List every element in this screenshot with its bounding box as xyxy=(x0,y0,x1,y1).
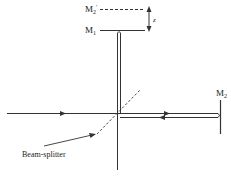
z-label: z xyxy=(152,16,156,24)
m2-label: M2 xyxy=(216,88,227,99)
horizontal-beam-to-m2 xyxy=(117,111,220,120)
vertical-beam-to-m1 xyxy=(118,32,121,171)
beam-splitter-callout: Beam-splitter xyxy=(22,133,96,159)
m1-label: M1 xyxy=(85,25,96,36)
z-displacement-arrow: z xyxy=(147,6,157,32)
beam-splitter-label: Beam-splitter xyxy=(22,150,66,159)
arrow-right-icon xyxy=(60,111,66,116)
virtual-mirror-m2-prime: M2' xyxy=(85,4,145,15)
m2-prime-label: M2' xyxy=(85,4,97,15)
mirror-m1: M1 xyxy=(85,25,145,36)
michelson-interferometer-diagram: M2' z M1 M2 xyxy=(0,0,231,177)
arrow-left-icon xyxy=(159,115,165,120)
beam-splitter xyxy=(97,89,141,134)
input-beam xyxy=(7,111,117,116)
mirror-m2: M2 xyxy=(216,88,227,134)
